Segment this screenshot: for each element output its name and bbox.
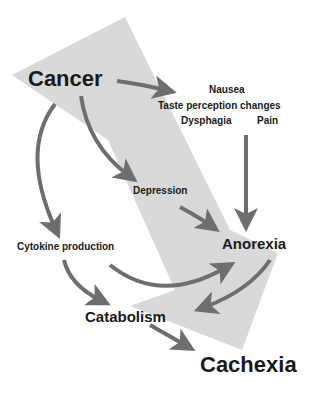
arrow-cytokine-to-catabolism (64, 260, 100, 300)
node-dysphagia: Dysphagia (181, 116, 232, 126)
node-nausea: Nausea (209, 85, 245, 95)
node-taste-perception-changes: Taste perception changes (158, 101, 281, 111)
node-pain: Pain (257, 116, 278, 126)
node-catabolism: Catabolism (85, 309, 166, 324)
node-anorexia: Anorexia (222, 236, 286, 251)
node-cancer: Cancer (28, 68, 103, 90)
diagram-canvas (0, 0, 325, 393)
node-cytokine-production: Cytokine production (17, 242, 114, 252)
node-depression: Depression (133, 186, 187, 196)
arrow-catabolism-to-cachexia (150, 325, 185, 345)
arrow-cancer-to-cytokine (38, 104, 56, 228)
node-cachexia: Cachexia (200, 354, 297, 376)
